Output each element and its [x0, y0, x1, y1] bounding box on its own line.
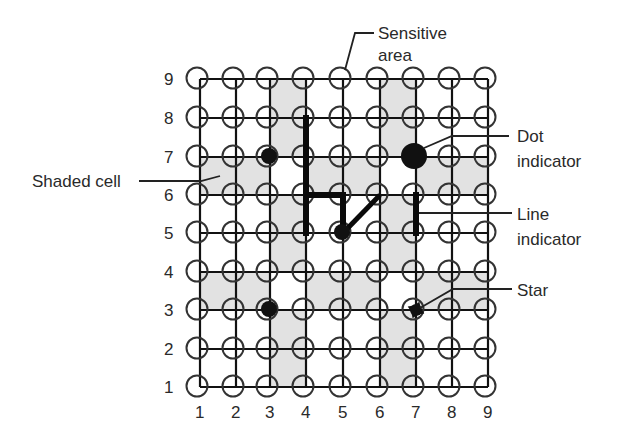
star-center — [410, 304, 422, 316]
sensitive-area-label-line1: Sensitive — [378, 24, 447, 43]
shaded-cell-label: Shaded cell — [32, 172, 121, 191]
column-label: 1 — [195, 403, 204, 422]
small-dot-icon — [261, 301, 277, 317]
dot-indicator-label-line2: indicator — [517, 152, 582, 171]
dot-indicator-icon — [401, 143, 427, 169]
row-axis-labels: 987654321 — [164, 70, 173, 397]
row-label: 9 — [164, 70, 173, 89]
row-label: 8 — [164, 109, 173, 128]
line-indicator-label-line1: Line — [517, 205, 549, 224]
column-label: 8 — [447, 403, 456, 422]
small-dot-icon — [261, 148, 277, 164]
column-label: 6 — [375, 403, 384, 422]
callout-line-indicator: Line indicator — [419, 205, 582, 249]
row-label: 4 — [164, 263, 173, 282]
callout-sensitive-area: Sensitive area — [345, 24, 447, 70]
row-label: 5 — [164, 224, 173, 243]
row-label: 6 — [164, 186, 173, 205]
leader-line — [345, 33, 374, 70]
column-label: 2 — [231, 403, 240, 422]
small-dot-icon — [334, 224, 350, 240]
column-label: 3 — [265, 403, 274, 422]
column-label: 9 — [483, 403, 492, 422]
row-label: 7 — [164, 148, 173, 167]
star-label: Star — [517, 281, 549, 300]
callout-shaded-cell: Shaded cell — [32, 172, 220, 191]
row-label: 1 — [164, 378, 173, 397]
sensitive-area-label-line2: area — [378, 46, 413, 65]
row-label: 3 — [164, 301, 173, 320]
column-label: 4 — [301, 403, 310, 422]
column-label: 5 — [338, 403, 347, 422]
leader-line — [424, 136, 509, 148]
column-axis-labels: 123456789 — [195, 403, 492, 422]
dot-indicator-label-line1: Dot — [517, 127, 544, 146]
line-indicator-label-line2: indicator — [517, 230, 582, 249]
row-label: 2 — [164, 340, 173, 359]
tactile-grid-diagram: 987654321 123456789 Sensitive area Shade… — [0, 0, 625, 441]
column-label: 7 — [411, 403, 420, 422]
